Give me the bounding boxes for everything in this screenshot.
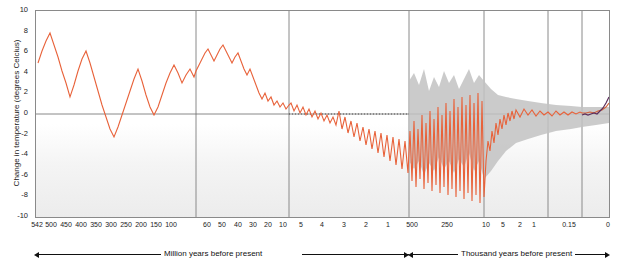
x-tick-21: 500: [406, 221, 418, 228]
x-tick-5: 300: [105, 221, 117, 228]
x-tick-15: 10: [279, 221, 287, 228]
x-tick-4: 350: [90, 221, 102, 228]
x-tick-27: 0.15: [562, 221, 576, 228]
x-tick-6: 250: [120, 221, 132, 228]
x-tick-17: 4: [320, 221, 324, 228]
right-arrow-line: [413, 254, 458, 255]
plot-area: [35, 10, 610, 218]
x-tick-24: 5: [501, 221, 505, 228]
left-arrow-line: [39, 254, 161, 255]
y-tick-10: 10: [8, 5, 28, 14]
y-tick-6: 6: [8, 46, 28, 55]
x-tick-10: 60: [203, 221, 211, 228]
left-arrow-head: [34, 252, 39, 258]
right-arrow-line2: [575, 254, 607, 255]
x-tick-14: 20: [264, 221, 272, 228]
x-tick-12: 40: [234, 221, 242, 228]
left-arrow-line2: [302, 254, 409, 255]
y-tick-2: 2: [8, 87, 28, 96]
x-axis-label-right: Thousand years before present: [461, 249, 572, 258]
y-tick-8: 8: [8, 26, 28, 35]
y-tick-neg10: -10: [8, 211, 28, 220]
x-tick-23: 10: [482, 221, 490, 228]
x-tick-19: 2: [364, 221, 368, 228]
y-tick-0: 0: [8, 108, 28, 117]
chart-svg: [36, 11, 609, 217]
chart-root: Change in temperature (degrees Celcius) …: [0, 0, 621, 268]
x-tick-13: 30: [249, 221, 257, 228]
x-tick-8: 150: [150, 221, 162, 228]
x-tick-1: 500: [45, 221, 57, 228]
x-tick-22: 250: [441, 221, 453, 228]
x-tick-7: 200: [135, 221, 147, 228]
x-tick-16: 5: [299, 221, 303, 228]
x-tick-20: 1: [386, 221, 390, 228]
y-tick-neg6: -6: [8, 170, 28, 179]
right-arrow-head: [408, 252, 413, 258]
x-tick-0: 542: [31, 221, 43, 228]
x-tick-11: 50: [218, 221, 226, 228]
x-tick-18: 3: [342, 221, 346, 228]
y-tick-4: 4: [8, 67, 28, 76]
x-tick-3: 400: [75, 221, 87, 228]
x-tick-2: 450: [60, 221, 72, 228]
y-tick-neg8: -8: [8, 190, 28, 199]
x-tick-26: 1: [532, 221, 536, 228]
y-tick-neg2: -2: [8, 129, 28, 138]
x-tick-9: 100: [165, 221, 177, 228]
x-tick-28: 0: [606, 221, 610, 228]
x-tick-25: 2: [518, 221, 522, 228]
y-tick-neg4: -4: [8, 149, 28, 158]
x-axis-label-left: Million years before present: [164, 249, 262, 258]
right-arrow-head2: [605, 252, 610, 258]
